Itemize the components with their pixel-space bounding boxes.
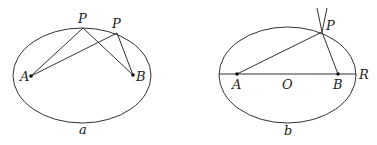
ellipse-b (219, 27, 356, 123)
ellipse-diagram: P P A B a P A O B R b (0, 0, 377, 145)
focus-a-point (29, 74, 33, 78)
label-o: O (282, 77, 293, 92)
segment-a-p2 (31, 33, 117, 76)
label-p2: P (111, 16, 121, 31)
figure-a: P P A B a (13, 11, 151, 137)
figure-b: P A O B R b (219, 8, 369, 138)
segment-b-p (322, 32, 338, 74)
caption-b: b (284, 123, 292, 138)
caption-a: a (79, 122, 87, 137)
focus-b-point (336, 72, 340, 76)
segment-a-p (237, 32, 322, 74)
focus-b-point (131, 73, 135, 77)
label-b: B (135, 69, 146, 84)
segment-p1-b (83, 28, 133, 75)
ellipse-a (13, 28, 151, 123)
label-p1: P (77, 11, 87, 26)
extension-line-1 (317, 8, 322, 32)
label-a: A (19, 69, 29, 84)
label-b: B (332, 77, 343, 92)
segment-a-p1 (31, 28, 83, 76)
label-a: A (231, 77, 241, 92)
focus-a-point (235, 72, 239, 76)
segment-p2-b (117, 33, 133, 75)
label-p: P (325, 18, 335, 33)
label-r: R (358, 67, 369, 82)
